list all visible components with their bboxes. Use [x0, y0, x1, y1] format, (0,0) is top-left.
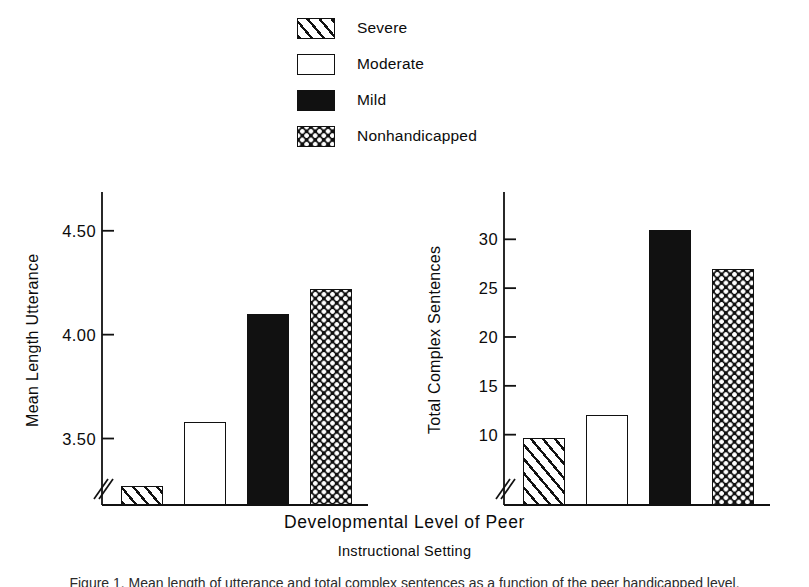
legend-item-moderate: Moderate [297, 46, 547, 82]
bar-severe [523, 438, 565, 505]
figure-caption: Figure 1. Mean length of utterance and t… [30, 575, 779, 587]
x-axis-title: Developmental Level of Peer [0, 512, 809, 533]
x-axis-subtitle: Instructional Setting [0, 543, 809, 559]
legend-item-severe: Severe [297, 10, 547, 46]
bar-mild [649, 230, 691, 505]
legend-item-mild: Mild [297, 82, 547, 118]
bar-group-left [18, 190, 370, 510]
bar-group-right [420, 190, 772, 510]
chart-mean-length-utterance: Mean Length Utterance 3.504.004.50 [18, 190, 370, 510]
legend-label-mild: Mild [357, 91, 386, 109]
chart-total-complex-sentences: Total Complex Sentences 1015202530 [420, 190, 772, 510]
bar-moderate [184, 422, 226, 505]
legend-swatch-nonhandicapped-icon [297, 126, 335, 147]
bar-nonhandicapped [310, 289, 352, 505]
legend-swatch-severe-icon [297, 18, 335, 39]
legend-label-moderate: Moderate [357, 55, 424, 73]
legend-swatch-moderate-icon [297, 54, 335, 75]
bar-moderate [586, 415, 628, 505]
legend: Severe Moderate Mild Nonhandicapped [297, 10, 547, 154]
bar-mild [247, 314, 289, 505]
bar-severe [121, 486, 163, 505]
legend-swatch-mild-icon [297, 90, 335, 111]
legend-label-nonhandicapped: Nonhandicapped [357, 127, 477, 145]
legend-label-severe: Severe [357, 19, 407, 37]
legend-item-nonhandicapped: Nonhandicapped [297, 118, 547, 154]
bar-nonhandicapped [712, 269, 754, 505]
